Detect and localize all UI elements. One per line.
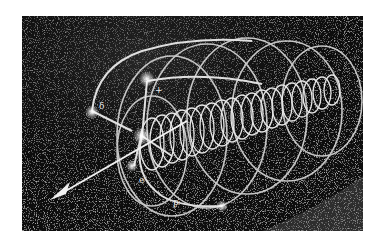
particle-track-photograph: δ + e p bbox=[22, 16, 363, 231]
label-p: p bbox=[173, 198, 179, 207]
label-delta: δ bbox=[99, 102, 104, 111]
track-drawing bbox=[22, 16, 363, 231]
label-plus: + bbox=[155, 86, 163, 95]
label-e: e bbox=[139, 176, 144, 185]
